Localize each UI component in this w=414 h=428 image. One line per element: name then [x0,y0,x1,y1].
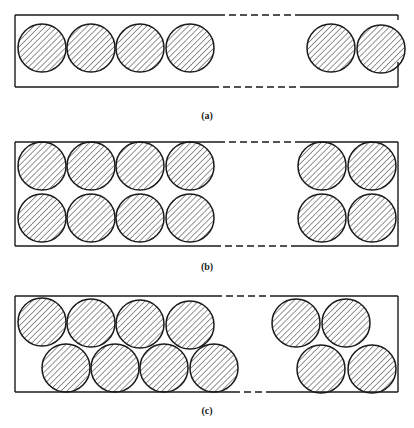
panel-label-a: (a) [201,110,213,121]
hatched-particle [140,344,188,392]
panel-a [15,15,405,87]
hatched-particle [91,344,139,392]
panel-c [15,296,398,393]
hatched-particle [348,142,396,190]
hatched-particle [307,24,355,72]
hatched-particle [116,142,164,190]
hatched-particle [298,142,346,190]
hatched-particle [297,345,345,393]
hatched-particle [348,345,396,393]
hatched-particle [116,194,164,242]
hatched-particle [166,142,214,190]
hatched-particle [116,300,164,348]
hatched-particle [166,301,214,349]
hatched-particle [18,194,66,242]
panels-layer [15,15,405,393]
packing-figure [0,0,414,428]
panel-label-b: (b) [201,261,213,272]
hatched-particle [190,344,238,392]
hatched-particle [67,194,115,242]
hatched-particle [18,298,66,346]
hatched-particle [166,24,214,72]
hatched-particle [42,344,90,392]
panel-label-c: (c) [201,405,212,416]
hatched-particle [116,24,164,72]
hatched-particle [18,24,66,72]
hatched-particle [272,299,320,347]
hatched-particle [348,194,396,242]
hatched-particle [67,142,115,190]
panel-b [15,142,398,246]
hatched-particle [67,299,115,347]
hatched-particle [18,142,66,190]
hatched-particle [298,194,346,242]
hatched-particle [357,25,405,73]
hatched-particle [67,24,115,72]
hatched-particle [322,299,370,347]
hatched-particle [166,194,214,242]
